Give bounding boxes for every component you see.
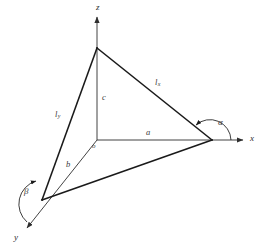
diagram-canvas xyxy=(0,0,268,252)
edge-ly xyxy=(42,48,97,200)
angle-alpha-arc xyxy=(196,120,231,140)
intercept-label-c: c xyxy=(102,93,106,102)
angle-label-beta: β xyxy=(24,187,28,196)
axis-label-y: y xyxy=(14,233,18,242)
edge-label-lx: lx xyxy=(155,78,160,87)
axis-lines xyxy=(27,17,243,228)
edge-label-ly-sub: y xyxy=(57,113,60,119)
vertex-c-dot xyxy=(96,47,98,49)
vertex-a-dot xyxy=(211,139,213,141)
edge-label-ly: ly xyxy=(55,110,60,119)
axis-label-z: z xyxy=(96,3,100,12)
origin-label: o xyxy=(92,143,96,150)
edge-label-lx-sub: x xyxy=(157,81,160,87)
geometry-diagram: z x y o a b c lx ly α β xyxy=(0,0,268,252)
intercept-label-b: b xyxy=(66,160,70,169)
vertex-b-dot xyxy=(41,199,43,201)
edge-lx xyxy=(97,48,212,140)
axis-label-x: x xyxy=(250,134,254,143)
intercept-label-a: a xyxy=(146,128,150,137)
edge-ab xyxy=(42,140,212,200)
angle-label-alpha: α xyxy=(218,118,223,127)
